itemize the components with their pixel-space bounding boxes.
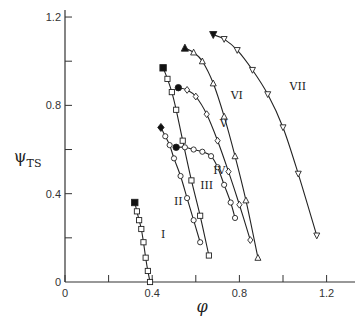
x-tick-label: 1.2 [319, 287, 334, 299]
triangle-down-marker [314, 233, 320, 239]
y-axis-title: ψTS [14, 147, 41, 170]
square-marker [143, 255, 148, 260]
curve-label-VI: VI [230, 89, 243, 102]
circle-marker [228, 200, 233, 205]
circle-marker [200, 149, 205, 154]
triangle-up-marker [210, 80, 216, 86]
square-marker [147, 279, 152, 284]
square-marker [145, 268, 150, 273]
x-axis-title: φ [196, 297, 208, 316]
square-marker [165, 76, 170, 81]
circle-marker [175, 84, 181, 90]
y-tick-label: 0 [55, 276, 61, 288]
series-III [160, 65, 212, 258]
circle-marker [182, 145, 187, 150]
chart: 00.40.81.200.40.81.2 IIIIIIIVVVIVII φ ψT… [0, 0, 363, 323]
axes: 00.40.81.200.40.81.2 [46, 10, 355, 299]
triangle-up-marker [255, 255, 261, 261]
curve-label-V: V [219, 117, 229, 130]
square-marker [134, 209, 139, 214]
curve-label-II: II [174, 195, 183, 208]
triangle-down-marker [295, 171, 301, 177]
diamond-marker [226, 168, 231, 175]
circle-marker [173, 144, 179, 150]
square-marker [160, 65, 166, 71]
circle-marker [198, 240, 203, 245]
curve-label-I: I [161, 228, 165, 241]
curve-label-VII: VII [289, 80, 307, 93]
circle-marker [171, 156, 176, 161]
triangle-up-marker [243, 197, 249, 203]
series-VII [210, 32, 320, 239]
circle-marker [184, 195, 189, 200]
y-tick-label: 1.2 [46, 11, 61, 23]
square-marker [169, 90, 174, 95]
series-group [132, 32, 320, 285]
square-marker [180, 138, 185, 143]
triangle-up-marker [191, 49, 197, 55]
square-marker [139, 226, 144, 231]
square-marker [137, 218, 142, 223]
y-tick-label: 0.8 [46, 99, 61, 111]
square-marker [141, 240, 146, 245]
diamond-marker [184, 87, 189, 94]
circle-marker [191, 147, 196, 152]
square-marker [198, 213, 203, 218]
diamond-marker [158, 123, 164, 131]
y-tick-label: 0.4 [46, 188, 61, 200]
diamond-marker [237, 201, 242, 208]
curve-label-III: III [200, 179, 213, 192]
y-axis-title-sub: TS [27, 157, 42, 170]
circle-marker [191, 218, 196, 223]
square-marker [189, 178, 194, 183]
diamond-marker [215, 137, 220, 144]
x-tick-label: 0.4 [145, 287, 160, 299]
triangle-down-marker [280, 125, 286, 131]
circle-marker [208, 154, 213, 159]
curve-label-IV: IV [213, 164, 226, 177]
circle-marker [178, 173, 183, 178]
series-line [213, 35, 317, 236]
circle-marker [163, 134, 168, 139]
x-tick-label: 0 [62, 287, 68, 299]
y-axis-title-main: ψ [14, 147, 27, 166]
circle-marker [222, 182, 227, 187]
square-marker [206, 253, 211, 258]
circle-marker [232, 215, 237, 220]
triangle-up-marker [181, 44, 188, 51]
series-line [163, 68, 209, 256]
triangle-up-marker [232, 153, 238, 159]
triangle-down-marker [265, 92, 271, 98]
square-marker [132, 199, 138, 205]
triangle-down-marker [221, 37, 227, 43]
x-tick-label: 0.8 [232, 287, 247, 299]
diamond-marker [248, 237, 253, 244]
square-marker [174, 107, 179, 112]
series-I [132, 199, 153, 284]
circle-marker [167, 143, 172, 148]
